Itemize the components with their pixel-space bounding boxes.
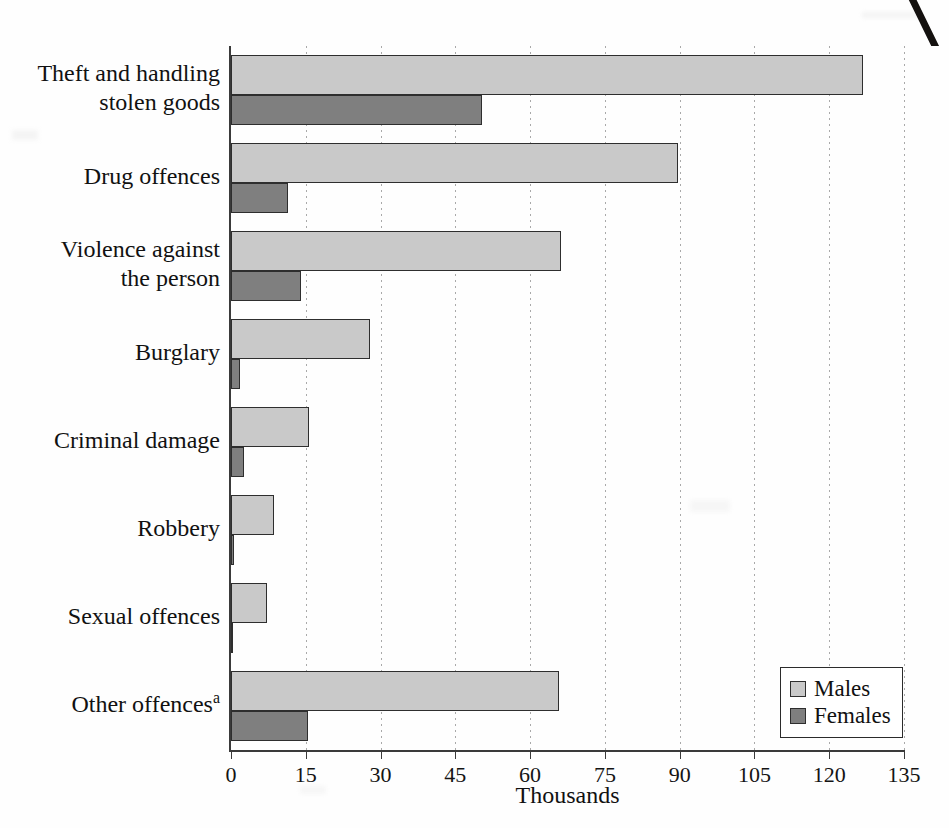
bar-females-3 [231, 359, 240, 389]
x-tick-15 [306, 750, 307, 759]
x-tick-75 [605, 750, 606, 759]
x-tick-45 [455, 750, 456, 759]
legend-item-females: Females [790, 702, 891, 729]
legend-swatch-males-icon [790, 681, 806, 697]
bar-males-3 [231, 319, 370, 359]
bar-females-1 [231, 183, 288, 213]
legend-label-females: Females [814, 703, 891, 728]
x-tick-120 [829, 750, 830, 759]
bar-females-4 [231, 447, 244, 477]
plot-area: 0153045607590105120135 [231, 46, 904, 750]
x-tick-30 [381, 750, 382, 759]
gridline-135 [904, 46, 905, 750]
bar-males-7 [231, 671, 559, 711]
x-tick-60 [530, 750, 531, 759]
gridline-90 [680, 46, 681, 750]
category-label-3: Burglary [0, 338, 220, 367]
bar-males-2 [231, 231, 561, 271]
x-axis-line [229, 750, 904, 752]
bar-females-2 [231, 271, 301, 301]
bar-males-6 [231, 583, 267, 623]
x-tick-90 [680, 750, 681, 759]
bar-females-6 [231, 623, 233, 653]
legend-item-males: Males [790, 675, 891, 702]
page-corner-mark [895, 0, 949, 46]
category-label-6: Sexual offences [0, 602, 220, 631]
bar-males-5 [231, 495, 274, 535]
category-label-4: Criminal damage [0, 426, 220, 455]
bar-females-0 [231, 95, 482, 125]
x-axis-title: Thousands [231, 782, 904, 809]
category-label-2: Violence againstthe person [0, 235, 220, 293]
legend-label-males: Males [814, 676, 870, 701]
scan-smudge [862, 12, 920, 18]
gridline-105 [754, 46, 755, 750]
bar-females-7 [231, 711, 308, 741]
x-tick-135 [904, 750, 905, 759]
category-label-1: Drug offences [0, 162, 220, 191]
chart-page: Theft and handlingstolen goodsDrug offen… [0, 0, 949, 828]
bar-males-1 [231, 143, 678, 183]
x-tick-105 [754, 750, 755, 759]
legend-swatch-females-icon [790, 708, 806, 724]
bar-females-5 [231, 535, 234, 565]
category-label-7: Other offencesa [0, 690, 220, 719]
bar-males-4 [231, 407, 309, 447]
category-footnote-marker: a [213, 689, 220, 706]
bar-males-0 [231, 55, 863, 95]
x-tick-0 [231, 750, 232, 759]
chart-legend: Males Females [780, 667, 903, 738]
scan-smudge [12, 130, 38, 140]
category-label-5: Robbery [0, 514, 220, 543]
category-label-0: Theft and handlingstolen goods [0, 59, 220, 117]
gridline-120 [829, 46, 830, 750]
